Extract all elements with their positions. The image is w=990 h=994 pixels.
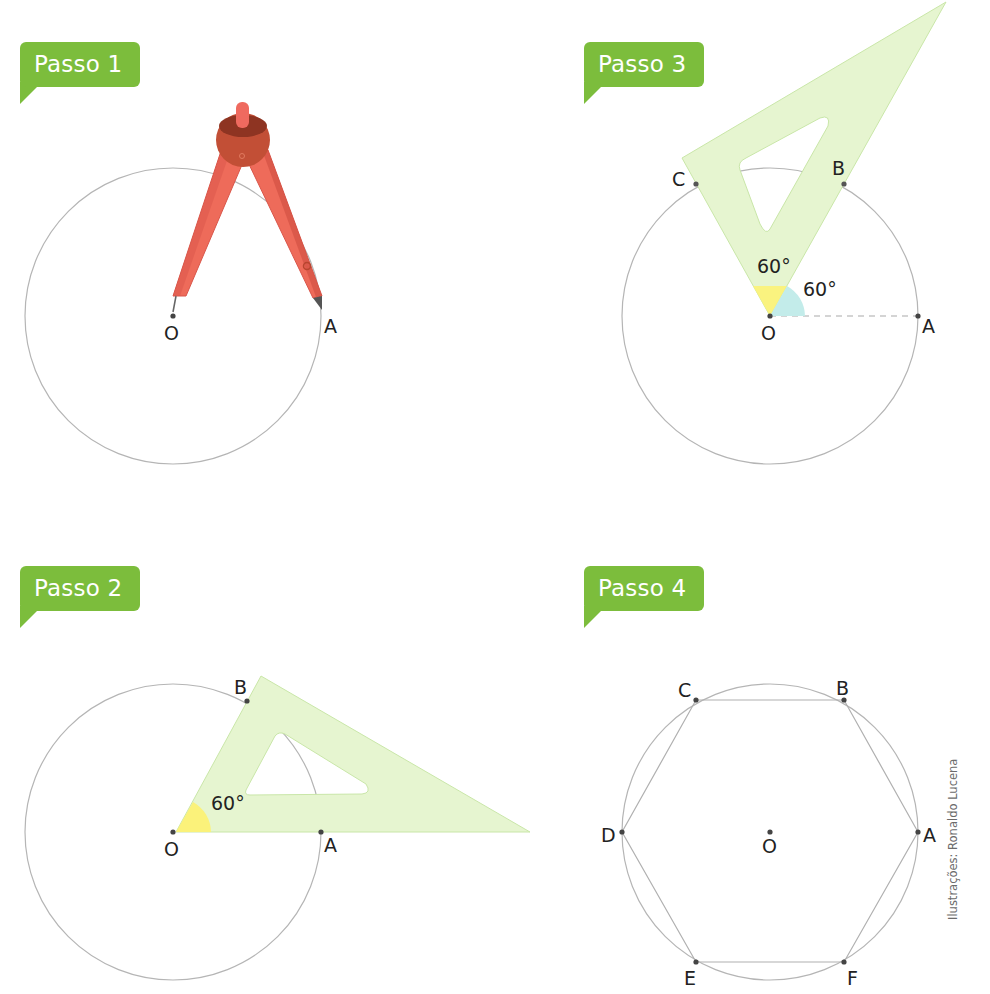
- step-1-title: Passo 1: [20, 42, 140, 87]
- step-2-label-b: B: [234, 676, 247, 698]
- step-2-label-a: A: [324, 834, 337, 856]
- step-4-label-o: O: [762, 835, 777, 857]
- step-4-label-c: C: [678, 679, 691, 701]
- step-3-title: Passo 3: [584, 42, 704, 87]
- step-4-label-e: E: [684, 967, 696, 989]
- step-2-angle-label: 60°: [211, 792, 245, 814]
- step-4-figure: O A B C D E F: [601, 677, 936, 989]
- compass-icon: [173, 102, 322, 312]
- step-2-title: Passo 2: [20, 566, 140, 611]
- step-3-label-o: O: [761, 322, 776, 344]
- step-4-label-b: B: [836, 677, 849, 699]
- set-square-icon: [682, 2, 946, 316]
- step-2-figure: 60° O A B: [25, 676, 530, 980]
- step-3-label-b: B: [832, 157, 845, 179]
- step-4-title: Passo 4: [584, 566, 704, 611]
- step-3-angle-label-2: 60°: [803, 278, 837, 300]
- step-4-label-a: A: [923, 824, 936, 846]
- construction-diagram: O A 60° 60° O A B C 60: [0, 0, 990, 994]
- step-3-label-a: A: [922, 315, 935, 337]
- diagram-canvas: O A 60° 60° O A B C 60: [0, 0, 990, 994]
- step-1-label-o: O: [164, 322, 179, 344]
- step-4-label-d: D: [601, 824, 616, 846]
- step-4-label-f: F: [847, 967, 858, 989]
- step-3-angle-label-1: 60°: [757, 255, 791, 277]
- step-1-figure: O A: [25, 102, 337, 464]
- step-3-label-c: C: [672, 168, 685, 190]
- step-1-point-o: [170, 313, 175, 318]
- step-2-label-o: O: [164, 838, 179, 860]
- step-1-label-a: A: [324, 315, 337, 337]
- illustration-credit: Ilustrações: Ronaldo Lucena: [946, 759, 960, 920]
